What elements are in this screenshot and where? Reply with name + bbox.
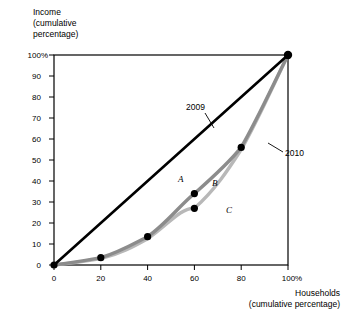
y-tick-20: 20 [32, 219, 41, 228]
y-tick-30: 30 [32, 198, 41, 207]
y-tick-40: 40 [32, 177, 41, 186]
chart-container: Income (cumulative percentage) 100% 90 8… [0, 0, 344, 321]
y-axis-title-line1: Income [33, 7, 61, 17]
data-point-60-2009 [191, 190, 198, 197]
y-tick-70: 70 [32, 114, 41, 123]
y-tick-0: 0 [37, 261, 42, 270]
x-axis-title-line2: (cumulative percentage) [249, 299, 340, 309]
data-point-80 [238, 144, 245, 151]
x-tick-100: 100% [282, 274, 302, 283]
x-axis-title-line1: Households [295, 288, 340, 298]
data-point-20 [97, 254, 104, 261]
x-tick-0: 0 [52, 274, 57, 283]
data-point-0-0 [50, 261, 57, 268]
label-2009: 2009 [186, 102, 205, 112]
label-2010: 2010 [285, 148, 304, 158]
leader-line-2010 [268, 143, 283, 152]
data-point-60-2010 [191, 205, 198, 212]
label-B: B [212, 178, 218, 188]
data-point-40 [144, 233, 151, 240]
y-axis-title-line3: percentage) [33, 29, 79, 39]
lorenz-curve-chart: Income (cumulative percentage) 100% 90 8… [0, 0, 344, 321]
label-A: A [177, 174, 184, 184]
y-tick-90: 90 [32, 72, 41, 81]
line-of-equality [54, 55, 288, 265]
y-tick-60: 60 [32, 135, 41, 144]
data-point-100 [284, 51, 292, 59]
y-tick-50: 50 [32, 156, 41, 165]
y-tick-10: 10 [32, 240, 41, 249]
x-tick-80: 80 [237, 274, 246, 283]
x-tick-20: 20 [96, 274, 105, 283]
x-tick-marks [54, 265, 288, 270]
x-tick-40: 40 [143, 274, 152, 283]
y-axis-title-line2: (cumulative [33, 18, 77, 28]
y-tick-100: 100% [28, 51, 48, 60]
y-tick-marks [49, 55, 54, 265]
x-tick-60: 60 [190, 274, 199, 283]
label-C: C [226, 205, 233, 215]
y-tick-80: 80 [32, 93, 41, 102]
